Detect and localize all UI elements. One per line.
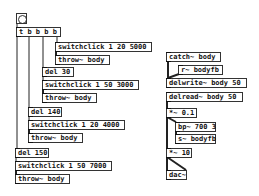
object-box-switchclick2[interactable]: switchclick 1 50 3000	[42, 80, 139, 90]
object-box-throw4[interactable]: throw~ body	[15, 174, 70, 184]
object-box-mul10[interactable]: *~ 10	[166, 148, 192, 158]
object-box-trigger[interactable]: t b b b b	[16, 27, 61, 37]
object-box-del140[interactable]: del 140	[28, 107, 62, 117]
pd-patch-canvas[interactable]: t b b b bswitchclick 1 20 5000throw~ bod…	[0, 0, 259, 196]
bang-circle-icon	[18, 15, 27, 24]
object-box-throw2[interactable]: throw~ body	[42, 93, 97, 103]
object-box-sbodyfb[interactable]: s~ bodyfb	[175, 134, 216, 144]
bang-button[interactable]	[16, 13, 27, 24]
object-box-throw3[interactable]: throw~ body	[28, 133, 83, 143]
object-box-switchclick3[interactable]: switchclick 1 20 4000	[28, 120, 125, 130]
object-box-switchclick1[interactable]: switchclick 1 20 5000	[55, 42, 152, 52]
object-box-bp[interactable]: bp~ 700 3	[175, 122, 216, 132]
object-box-delread[interactable]: delread~ body 50	[166, 92, 243, 102]
object-box-delwrite[interactable]: delwrite~ body 50	[166, 78, 247, 88]
object-box-del150[interactable]: del 150	[15, 148, 49, 158]
object-box-rbodyfb[interactable]: r~ bodyfb	[178, 65, 223, 75]
object-box-throw1[interactable]: throw~ body	[55, 55, 110, 65]
object-box-del30[interactable]: del 30	[42, 67, 74, 77]
object-box-catch[interactable]: catch~ body	[166, 52, 221, 62]
object-box-dac[interactable]: dac~	[166, 170, 187, 180]
object-box-switchclick4[interactable]: switchclick 1 50 7000	[15, 161, 112, 171]
object-box-mul01[interactable]: *~ 0.1	[166, 108, 197, 118]
